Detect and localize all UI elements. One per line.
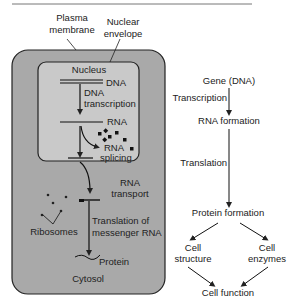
- rna-transport-label-2: transport: [111, 188, 149, 199]
- edge-to-cell-structure: [192, 223, 218, 239]
- rna-formation-node: RNA formation: [198, 115, 260, 126]
- protein-label: Protein: [99, 256, 129, 267]
- ribosomes-label: Ribosomes: [30, 226, 78, 237]
- cell-function-node: Cell function: [202, 287, 254, 298]
- cell-enzymes-node: Cell: [259, 242, 275, 253]
- nuclear-envelope-label: Nuclear: [107, 16, 140, 27]
- edge-to-cell-enzymes: [240, 223, 266, 239]
- cell-structure-node: Cell: [185, 242, 201, 253]
- edge-structure-to-function: [188, 267, 213, 285]
- translation-label-2: messenger RNA: [92, 227, 162, 238]
- nucleus-label: Nucleus: [72, 64, 107, 75]
- gene-node: Gene (DNA): [203, 75, 255, 86]
- nuclear-envelope-label-2: envelope: [104, 28, 143, 39]
- cell-enzymes-node-2: enzymes: [248, 253, 286, 264]
- plasma-membrane-label-2: membrane: [49, 24, 94, 35]
- dna-label: DNA: [106, 77, 127, 88]
- gene-expression-diagram: Plasma membrane Nuclear envelope Nucleus…: [0, 0, 298, 304]
- rna-splicing-label-2: splicing: [100, 152, 132, 163]
- rna-label: RNA: [107, 116, 128, 127]
- rna-transport-label: RNA: [120, 177, 141, 188]
- protein-formation-node: Protein formation: [192, 207, 264, 218]
- translation-label: Translation of: [92, 215, 150, 226]
- ribosome-on-mrna: [79, 199, 84, 202]
- dna-transcription-label-2: transcription: [84, 98, 136, 109]
- cell-structure-node-2: structure: [175, 253, 212, 264]
- translation-edge-label: Translation: [180, 157, 227, 168]
- dna-transcription-label: DNA: [84, 87, 105, 98]
- plasma-membrane-label: Plasma: [56, 12, 88, 23]
- plasma-membrane-leader: [67, 39, 76, 50]
- cytosol-label: Cytosol: [72, 273, 104, 284]
- transcription-edge-label: Transcription: [172, 92, 227, 103]
- edge-enzymes-to-function: [243, 267, 268, 285]
